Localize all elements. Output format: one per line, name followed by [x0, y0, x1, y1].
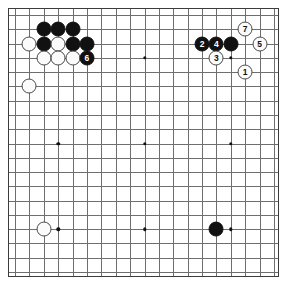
stone-move-number: 7	[243, 25, 248, 34]
star-point	[56, 227, 59, 230]
star-point	[229, 56, 232, 59]
grid-line-horizontal	[9, 86, 278, 87]
stone-move-number: 1	[243, 68, 248, 77]
white-stone[interactable]	[22, 79, 37, 94]
grid-line-horizontal	[9, 258, 278, 259]
grid-line-horizontal	[9, 158, 278, 159]
grid-line-horizontal	[9, 129, 278, 130]
star-point	[143, 56, 146, 59]
black-stone[interactable]	[79, 36, 94, 51]
star-point	[143, 142, 146, 145]
grid-line-vertical	[274, 9, 275, 276]
grid-line-horizontal	[9, 243, 278, 244]
grid-line-vertical	[188, 9, 189, 276]
stone-move-number: 2	[200, 39, 205, 48]
grid-line-horizontal	[9, 201, 278, 202]
numbered-stone-6[interactable]: 6	[79, 50, 94, 65]
white-stone[interactable]	[36, 50, 51, 65]
numbered-stone-3[interactable]: 3	[209, 50, 224, 65]
stone-move-number: 3	[214, 54, 219, 63]
white-stone[interactable]	[36, 222, 51, 237]
go-diagram: 6247531	[0, 0, 289, 295]
black-stone[interactable]	[65, 22, 80, 37]
grid-line-horizontal	[9, 115, 278, 116]
grid-line-vertical	[245, 9, 246, 276]
black-stone[interactable]	[36, 36, 51, 51]
star-point	[143, 227, 146, 230]
grid-line-horizontal	[9, 272, 278, 273]
grid-line-vertical	[159, 9, 160, 276]
grid-line-vertical	[101, 9, 102, 276]
black-stone[interactable]	[223, 36, 238, 51]
grid-line-horizontal	[9, 15, 278, 16]
grid-line-vertical	[116, 9, 117, 276]
grid-line-vertical	[15, 9, 16, 276]
stone-move-number: 4	[214, 39, 219, 48]
black-stone[interactable]	[65, 36, 80, 51]
white-stone[interactable]	[51, 50, 66, 65]
grid-line-horizontal	[9, 186, 278, 187]
grid-line-vertical	[130, 9, 131, 276]
numbered-stone-4[interactable]: 4	[209, 36, 224, 51]
white-stone[interactable]	[65, 50, 80, 65]
grid-line-vertical	[173, 9, 174, 276]
white-stone[interactable]	[51, 36, 66, 51]
star-point	[56, 142, 59, 145]
white-stone[interactable]	[22, 36, 37, 51]
stone-move-number: 6	[85, 54, 90, 63]
numbered-stone-1[interactable]: 1	[238, 65, 253, 80]
go-board[interactable]: 6247531	[8, 8, 279, 277]
numbered-stone-5[interactable]: 5	[252, 36, 267, 51]
star-point	[229, 227, 232, 230]
stone-move-number: 5	[257, 39, 262, 48]
black-stone[interactable]	[36, 22, 51, 37]
black-stone[interactable]	[51, 22, 66, 37]
numbered-stone-2[interactable]: 2	[195, 36, 210, 51]
black-stone[interactable]	[209, 222, 224, 237]
grid-line-horizontal	[9, 101, 278, 102]
numbered-stone-7[interactable]: 7	[238, 22, 253, 37]
grid-line-horizontal	[9, 215, 278, 216]
star-point	[229, 142, 232, 145]
grid-line-horizontal	[9, 172, 278, 173]
